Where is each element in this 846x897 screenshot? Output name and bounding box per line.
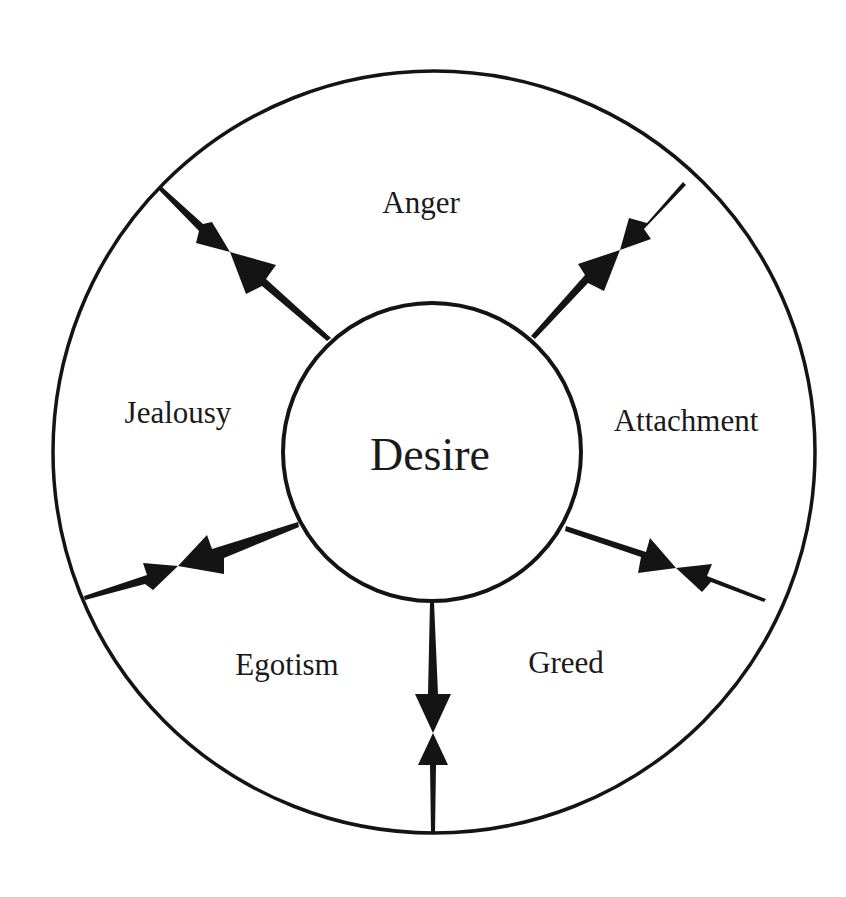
arrow-outward-icon [415,602,451,733]
arrow-outward-icon [230,252,331,341]
arrow-inward-icon [159,187,230,252]
connector-attachment-greed [565,526,766,602]
segment-label-egotism: Egotism [235,647,338,682]
connector-anger-attachment [531,182,686,339]
arrow-inward-icon [418,733,448,833]
center-label: Desire [370,429,490,480]
segment-label-jealousy: Jealousy [125,395,232,430]
connector-egotism-jealousy [84,522,299,600]
connector-jealousy-anger [159,187,331,341]
arrow-outward-icon [531,250,620,339]
desire-diagram: Desire Anger Attachment Greed Egotism Je… [0,0,846,897]
segment-label-greed: Greed [528,645,604,680]
segment-label-anger: Anger [382,185,460,220]
arrow-inward-icon [84,563,178,600]
segment-label-attachment: Attachment [614,403,759,438]
arrow-inward-icon [676,564,766,602]
arrow-outward-icon [565,526,676,573]
connector-greed-egotism [415,602,451,833]
arrow-outward-icon [178,522,299,574]
arrow-inward-icon [620,182,686,250]
